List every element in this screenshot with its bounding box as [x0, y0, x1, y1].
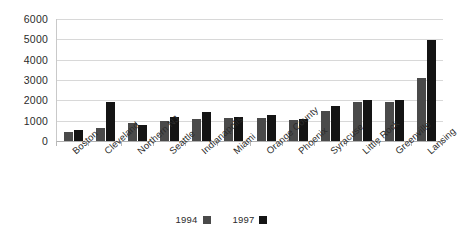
y-tick-label: 2000: [24, 94, 48, 106]
plot-wrapper: 6000500040003000200010000 BostonClevelan…: [0, 0, 443, 150]
x-label-cell: Boston: [56, 146, 88, 204]
x-label-cell: Seattle: [153, 146, 185, 204]
legend-label-1994: 1994: [176, 214, 198, 225]
y-tick-label: 1000: [24, 115, 48, 127]
bar-syracuse-1997: [331, 106, 340, 141]
legend-item-1994[interactable]: 1994: [176, 214, 211, 225]
plot-area: [56, 19, 443, 141]
bar-boston-1994: [64, 132, 73, 141]
x-label-cell: Orange County: [250, 146, 282, 204]
y-axis: 6000500040003000200010000: [0, 0, 48, 150]
bar-group: [250, 19, 282, 141]
legend-item-1997[interactable]: 1997: [233, 214, 268, 225]
bar-cleveland-1997: [106, 102, 115, 141]
y-tick-label: 4000: [24, 54, 48, 66]
bars-layer: [57, 19, 443, 141]
y-tick-label: 0: [42, 135, 48, 147]
x-label-cell: Cleveland: [88, 146, 120, 204]
x-label-cell: Syracuse: [314, 146, 346, 204]
legend-swatch-1994: [203, 216, 211, 224]
bar-group: [186, 19, 218, 141]
x-label-cell: Phoenix: [282, 146, 314, 204]
y-tick-label: 3000: [24, 74, 48, 86]
x-label-cell: Little Rock: [346, 146, 378, 204]
x-label-cell: Miami: [217, 146, 249, 204]
bar-orange-county-1994: [257, 118, 266, 141]
x-axis-category-labels: BostonClevelandNorthern NJSeattleIndiana…: [56, 146, 443, 204]
legend-label-1997: 1997: [233, 214, 255, 225]
x-label-cell: Greenville: [379, 146, 411, 204]
bar-group: [347, 19, 379, 141]
x-label-cell: Northern NJ: [121, 146, 153, 204]
y-tick-label: 6000: [24, 13, 48, 25]
chart-legend: 19941997: [0, 214, 443, 225]
bar-little-rock-1997: [363, 100, 372, 141]
bar-group: [57, 19, 89, 141]
y-tick-label: 5000: [24, 33, 48, 45]
x-label-cell: Lansing: [411, 146, 443, 204]
bar-group: [89, 19, 121, 141]
bar-group: [314, 19, 346, 141]
x-label-cell: Indianapolis: [185, 146, 217, 204]
legend-swatch-1997: [259, 216, 267, 224]
